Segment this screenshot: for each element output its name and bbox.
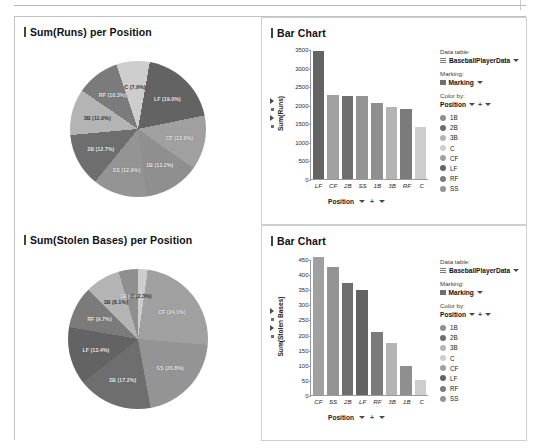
x-axis-selector[interactable]: Position+ xyxy=(328,198,385,205)
legend-color-dot-icon xyxy=(440,396,446,402)
pie-slice-label: LF (19.0%) xyxy=(154,96,181,102)
color-legend: 1B2B3BCCFLFRFSS xyxy=(440,324,526,402)
chevron-down-icon[interactable] xyxy=(379,416,385,419)
legend-color-dot-icon xyxy=(440,115,446,121)
y-axis-tick-label: 500 xyxy=(298,158,308,164)
plus-icon[interactable]: + xyxy=(370,198,374,205)
marking-selector[interactable]: Marking xyxy=(440,79,526,86)
bar[interactable] xyxy=(415,127,427,179)
marking-selector[interactable]: Marking xyxy=(440,289,526,296)
y-axis-tick-label: 300 xyxy=(298,302,308,308)
plus-icon[interactable]: + xyxy=(370,414,374,421)
chevron-down-icon[interactable] xyxy=(359,416,365,419)
legend-item[interactable]: LF xyxy=(440,375,526,382)
chevron-down-icon[interactable] xyxy=(359,200,365,203)
legend-item[interactable]: 1B xyxy=(440,324,526,331)
x-axis-tick-label: RF xyxy=(403,182,411,189)
marking-selector-value: Marking xyxy=(449,79,474,86)
legend-color-dot-icon xyxy=(440,135,446,141)
data-table-selector[interactable]: BaseballPlayerData xyxy=(440,57,526,64)
bar[interactable] xyxy=(386,107,398,179)
pie-slices[interactable] xyxy=(68,269,208,409)
legend-color-dot-icon xyxy=(440,375,446,381)
legend-color-dot-icon xyxy=(440,176,446,182)
legend-item[interactable]: 3B xyxy=(440,344,526,351)
x-axis-tick-label: 3B xyxy=(388,182,396,189)
chevron-down-icon[interactable] xyxy=(379,200,385,203)
y-axis-tick-label: 200 xyxy=(298,333,308,339)
chevron-down-icon[interactable] xyxy=(477,81,483,84)
legend-item-label: SS xyxy=(450,395,458,402)
chevron-down-icon[interactable] xyxy=(469,103,475,106)
plus-icon[interactable]: + xyxy=(478,311,482,318)
pie-slices[interactable] xyxy=(70,61,206,197)
legend-item[interactable]: SS xyxy=(440,395,526,402)
bar[interactable] xyxy=(313,51,325,180)
data-table-selector-value: BaseballPlayerData xyxy=(449,57,510,64)
chevron-down-icon[interactable] xyxy=(513,269,519,272)
marking-icon xyxy=(440,80,446,86)
color-by-label: Color by: xyxy=(440,302,526,309)
legend-color-dot-icon xyxy=(440,125,446,131)
plot-area[interactable]: 050100150200250300350400450CFSS2BLFRF3B1… xyxy=(310,260,428,396)
legend-item[interactable]: C xyxy=(440,145,526,152)
x-axis-tick-label: LF xyxy=(359,398,366,405)
chevron-down-icon[interactable] xyxy=(485,313,491,316)
bar[interactable] xyxy=(386,343,398,395)
panel-stolenbases-bar: Bar Chart Sum(Stolen Bases)0501001502002… xyxy=(261,225,527,441)
x-axis-tick-label: 2B xyxy=(344,398,352,405)
bar[interactable] xyxy=(400,366,412,395)
chevron-down-icon[interactable] xyxy=(469,313,475,316)
legend-item[interactable]: 2B xyxy=(440,124,526,131)
y-axis-tick-label: 2500 xyxy=(295,84,308,90)
bar[interactable] xyxy=(356,290,368,395)
legend-item[interactable]: C xyxy=(440,355,526,362)
color-by-selector[interactable]: Position+ xyxy=(440,101,526,108)
plus-icon[interactable]: + xyxy=(478,101,482,108)
legend-item[interactable]: SS xyxy=(440,185,526,192)
data-table-selector[interactable]: BaseballPlayerData xyxy=(440,267,526,274)
bar[interactable] xyxy=(371,103,383,179)
plot-area[interactable]: 0500100015002000250030003500LFCF2BSS1B3B… xyxy=(310,50,428,180)
legend-item[interactable]: CF xyxy=(440,365,526,372)
bar[interactable] xyxy=(342,283,354,395)
runs-pie-chart[interactable]: LF (19.0%)CF (13.0%)1B (13.2%)SS (12.9%)… xyxy=(15,41,261,223)
color-by-selector[interactable]: Position+ xyxy=(440,311,526,318)
pie-slice-label: LF (13.4%) xyxy=(82,347,109,353)
legend-item[interactable]: 2B xyxy=(440,334,526,341)
bar[interactable] xyxy=(356,96,368,179)
legend-item[interactable]: RF xyxy=(440,175,526,182)
bar[interactable] xyxy=(313,257,325,395)
chevron-down-icon[interactable] xyxy=(477,291,483,294)
x-axis-tick-label: SS xyxy=(358,182,366,189)
bar[interactable] xyxy=(342,96,354,179)
marking-icon xyxy=(440,290,446,296)
chevron-down-icon[interactable] xyxy=(513,59,519,62)
bar[interactable] xyxy=(327,267,339,395)
legend-item[interactable]: LF xyxy=(440,165,526,172)
chevron-down-icon[interactable] xyxy=(485,103,491,106)
x-axis-tick-label: C xyxy=(419,398,423,405)
pie-slice-label: SS (12.9%) xyxy=(113,167,141,173)
legend-item[interactable]: CF xyxy=(440,155,526,162)
legend-item-label: 1B xyxy=(450,324,458,331)
pie-slice-label: 1B (13.2%) xyxy=(146,162,173,168)
y-axis-tick-label: 400 xyxy=(298,272,308,278)
legend-item[interactable]: RF xyxy=(440,385,526,392)
bar[interactable] xyxy=(327,95,339,179)
dashboard-board: Sum(Runs) per Position LF (19.0%)CF (13.… xyxy=(14,16,526,440)
legend-item-label: RF xyxy=(450,175,458,182)
bar[interactable] xyxy=(400,109,412,179)
x-axis-selector[interactable]: Position+ xyxy=(328,414,385,421)
bar[interactable] xyxy=(415,380,427,395)
panel-title-text: Sum(Runs) per Position xyxy=(30,26,152,38)
y-axis-tick-label: 2000 xyxy=(295,103,308,109)
x-axis-tick-label: CF xyxy=(314,398,322,405)
legend-item-label: 3B xyxy=(450,344,458,351)
stolenbases-pie-chart[interactable]: CF (24.1%)SS (20.8%)2B (17.2%)LF (13.4%)… xyxy=(15,249,261,435)
legend-item[interactable]: 1B xyxy=(440,114,526,121)
legend-item[interactable]: 3B xyxy=(440,134,526,141)
bar[interactable] xyxy=(371,332,383,395)
color-by-selector-value: Position xyxy=(440,101,466,108)
y-axis-tick-mark xyxy=(309,180,312,181)
